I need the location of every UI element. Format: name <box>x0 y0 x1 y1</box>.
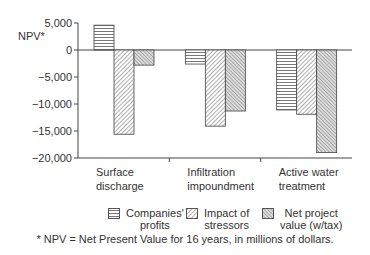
bar-horizontal-lines <box>185 50 205 64</box>
bar-dense-diagonal-lines <box>317 50 337 153</box>
horizontal-lines-swatch-icon <box>108 208 120 219</box>
y-axis-label: NPV* <box>18 30 45 42</box>
y-tick-label: 0 <box>66 44 72 56</box>
category-label: discharge <box>96 180 144 192</box>
legend-label: Companies' profits <box>126 207 184 231</box>
y-tick-label: −5,000 <box>38 71 72 83</box>
y-tick-label: 5,000 <box>44 17 72 29</box>
category-labels: SurfacedischargeInfiltrationimpoundmentA… <box>96 166 339 192</box>
legend-label: Impact of stressors <box>204 207 249 231</box>
category-label: Surface <box>96 166 134 178</box>
bar-dense-diagonal-lines <box>134 50 154 65</box>
bar-horizontal-lines <box>94 25 114 50</box>
legend-label: Net project value (w/tax) <box>280 207 342 231</box>
category-label: Infiltration <box>187 166 235 178</box>
y-tick-label: −20,000 <box>32 152 72 164</box>
category-label: impoundment <box>187 180 254 192</box>
footnote: * NPV = Net Present Value for 16 years, … <box>0 233 370 245</box>
bar-diagonal-lines <box>114 50 134 134</box>
npv-bar-chart: 5,0000−5,000−10,000−15,000−20,000 Surfac… <box>0 0 370 205</box>
bar-dense-diagonal-lines <box>225 50 245 111</box>
bar-diagonal-lines <box>297 50 317 114</box>
bar-horizontal-lines <box>277 50 297 110</box>
bars <box>94 25 337 152</box>
y-tick-label: −15,000 <box>32 125 72 137</box>
category-label: treatment <box>279 180 325 192</box>
diagonal-lines-swatch-icon <box>186 208 198 219</box>
bar-diagonal-lines <box>205 50 225 126</box>
y-tick-label: −10,000 <box>32 98 72 110</box>
category-label: Active water <box>279 166 339 178</box>
dense-diagonal-swatch-icon <box>262 208 274 219</box>
